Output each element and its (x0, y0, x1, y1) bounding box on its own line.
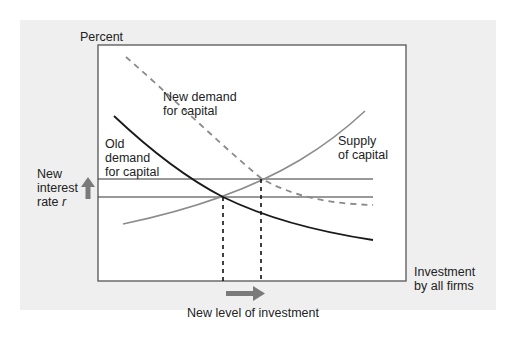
interest-rate-word: rate (37, 195, 59, 209)
interest-rate-increase-arrow-icon (81, 177, 95, 199)
investment-level-label: New level of investment (187, 306, 319, 320)
old-demand-label-line3: for capital (105, 165, 159, 179)
interest-rate-symbol: r (62, 195, 66, 209)
supply-label-line1: Supply (338, 134, 376, 148)
new-demand-label-line1: New demand (163, 90, 237, 104)
old-demand-label-line1: Old (105, 137, 124, 151)
supply-label-line2: of capital (338, 148, 388, 162)
x-axis-label-line2: by all firms (414, 279, 474, 293)
investment-increase-arrow-icon (226, 286, 265, 301)
interest-label-line3: rate r (37, 195, 66, 209)
interest-label-line1: New (37, 167, 62, 181)
old-demand-label-line2: demand (105, 151, 150, 165)
new-demand-label-line2: for capital (163, 104, 217, 118)
x-axis-label-line1: Investment (414, 265, 475, 279)
interest-label-line2: interest (37, 181, 78, 195)
y-axis-label: Percent (80, 30, 123, 44)
